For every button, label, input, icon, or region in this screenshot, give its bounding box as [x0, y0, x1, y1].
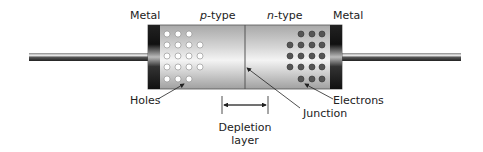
depletion-label-line2: layer: [231, 134, 259, 147]
holes-label: Holes: [130, 94, 161, 107]
right-metal-contact: [330, 25, 342, 89]
p-type-label: p-type: [199, 9, 236, 22]
depletion-layer-bracket: [222, 96, 268, 114]
depletion-label-line1: Depletion: [218, 121, 271, 134]
metal-right-label: Metal: [333, 9, 363, 22]
electrons-label: Electrons: [333, 94, 384, 107]
junction-label: Junction: [302, 107, 347, 120]
left-metal-contact: [148, 25, 160, 89]
right-wire: [341, 53, 461, 61]
diode-diagram: Metal p-type n-type Metal Holes Electron…: [0, 0, 483, 152]
metal-left-label: Metal: [130, 9, 160, 22]
n-type-label: n-type: [267, 9, 303, 22]
left-wire: [29, 53, 149, 61]
